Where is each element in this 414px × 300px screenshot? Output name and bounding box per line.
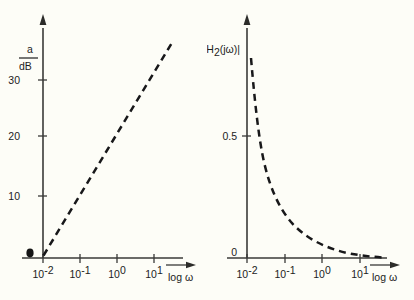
left-x-ticklabel-3: 100 [108,264,126,281]
left-x-axis-title: log ω [168,271,193,283]
left-x-ticklabel-1: 10-2 [32,264,53,281]
left-chart-svg: a dB 30 20 10 10-2 10-1 100 101 log ω [0,0,207,300]
right-x-ticklabel-3: 100 [313,264,331,281]
left-x-ticklabel-4: 101 [145,264,163,281]
left-y-axis-arrow-icon [40,14,47,25]
right-y-axis-arrow-icon [244,14,251,25]
right-y-ticklabel-0: 0 [231,246,237,258]
chart-panel-left: a dB 30 20 10 10-2 10-1 100 101 log ω [0,0,207,300]
left-x-axis-arrow-icon [186,262,196,268]
left-origin-marker [26,249,33,258]
right-y-ticklabel-0p5: 0.5 [222,130,237,142]
figure-canvas: a dB 30 20 10 10-2 10-1 100 101 log ω [0,0,414,300]
left-data-series-dashed-line [44,41,174,256]
right-x-ticklabel-1: 10-2 [236,264,257,281]
left-y-ticklabel-30: 30 [8,74,20,86]
right-chart-svg: |H2(jω)| 0.5 0 10-2 10-1 100 101 log ω [207,0,414,300]
right-x-ticklabel-4: 101 [351,264,369,281]
right-x-ticklabel-2: 10-1 [274,264,295,281]
left-y-ticklabel-10: 10 [8,190,20,202]
right-x-axis-arrow-icon [390,262,400,268]
left-y-axis-numerator: a [27,43,33,55]
left-x-ticklabel-2: 10-1 [69,264,90,281]
right-x-axis-title: log ω [372,271,397,283]
chart-panel-right: |H2(jω)| 0.5 0 10-2 10-1 100 101 log ω [207,0,414,300]
right-y-axis-title: |H2(jω)| [207,43,240,58]
right-data-series-dashed-curve [251,58,385,258]
left-y-axis-denominator: dB [19,60,32,72]
left-y-ticklabel-20: 20 [8,130,20,142]
